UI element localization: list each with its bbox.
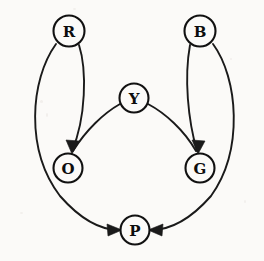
- node-O[interactable]: O: [54, 154, 83, 183]
- node-P-label: P: [129, 222, 140, 240]
- node-R[interactable]: R: [54, 16, 85, 47]
- edge-layer: [35, 44, 234, 230]
- edge-B-to-P[interactable]: [151, 44, 234, 230]
- node-O-label: O: [61, 160, 74, 178]
- diagram-canvas: R B Y O G P: [0, 0, 264, 261]
- arrowhead-into-O: [66, 140, 79, 154]
- node-R-label: R: [63, 23, 76, 41]
- edge-R-to-O[interactable]: [72, 45, 84, 151]
- node-B[interactable]: B: [185, 16, 216, 47]
- node-Y[interactable]: Y: [120, 84, 149, 113]
- node-Y-label: Y: [128, 90, 140, 108]
- directed-graph: R B Y O G P: [0, 0, 264, 261]
- edge-B-to-G[interactable]: [187, 45, 197, 151]
- node-G-label: G: [194, 160, 207, 178]
- node-B-label: B: [194, 23, 207, 41]
- node-P[interactable]: P: [121, 216, 150, 245]
- node-G[interactable]: G: [186, 154, 215, 183]
